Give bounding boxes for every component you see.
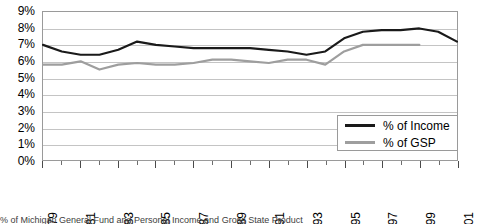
chart-legend: % of Income % of GSP: [337, 115, 458, 151]
x-tick-mark: [61, 161, 62, 165]
x-tick-mark: [250, 161, 251, 165]
legend-swatch-icon-pct-of-income: [345, 124, 375, 127]
y-tick-label: 1%: [18, 138, 35, 150]
y-tick-label: 5%: [18, 72, 35, 84]
x-tick-mark: [193, 161, 194, 168]
chart-container: 0%1%2%3%4%5%6%7%8%9% 1979198119831985198…: [0, 0, 485, 224]
legend-swatch-icon-pct-of-gsp: [345, 141, 375, 144]
x-tick-mark: [288, 161, 289, 165]
y-tick-label: 8%: [18, 22, 35, 34]
x-tick-mark: [401, 161, 402, 165]
x-tick-mark: [99, 161, 100, 165]
x-tick-mark: [363, 161, 364, 165]
legend-label-pct-of-gsp: % of GSP: [383, 137, 436, 149]
y-tick-label: 2%: [18, 122, 35, 134]
x-tick-mark: [137, 161, 138, 165]
legend-item-pct-of-gsp: % of GSP: [338, 134, 457, 151]
figure-caption-text: % of Michigan General Fund and Personal …: [0, 216, 485, 224]
figure-caption: % of Michigan General Fund and Personal …: [0, 216, 485, 224]
x-tick-mark: [269, 161, 270, 168]
y-tick-label: 7%: [18, 38, 35, 50]
x-axis-ticks: [42, 161, 458, 168]
y-tick-label: 3%: [18, 105, 35, 117]
x-tick-mark: [118, 161, 119, 168]
x-tick-mark: [458, 161, 459, 168]
x-tick-mark: [345, 161, 346, 168]
x-tick-mark: [307, 161, 308, 168]
y-tick-label: 0%: [18, 155, 35, 167]
x-axis: 1979198119831985198719891991199319951997…: [42, 168, 458, 216]
x-tick-mark: [326, 161, 327, 165]
y-tick-label: 4%: [18, 88, 35, 100]
y-tick-label: 6%: [18, 55, 35, 67]
x-tick-mark: [420, 161, 421, 168]
x-tick-mark: [439, 161, 440, 165]
x-tick-mark: [42, 161, 43, 168]
legend-label-pct-of-income: % of Income: [383, 120, 450, 132]
x-tick-mark: [231, 161, 232, 168]
y-axis: 0%1%2%3%4%5%6%7%8%9%: [0, 0, 38, 170]
x-tick-mark: [174, 161, 175, 165]
x-tick-mark: [212, 161, 213, 165]
x-tick-mark: [80, 161, 81, 168]
x-tick-mark: [382, 161, 383, 168]
series-line-pct-of-income: [43, 28, 457, 54]
y-tick-label: 9%: [18, 5, 35, 17]
legend-item-pct-of-income: % of Income: [338, 117, 457, 134]
x-tick-mark: [155, 161, 156, 168]
